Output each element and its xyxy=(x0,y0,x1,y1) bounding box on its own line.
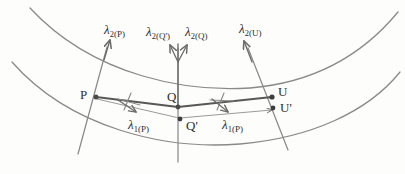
point-label-U-prime: U' xyxy=(280,101,292,114)
chord-Q-to-U xyxy=(178,97,272,107)
point-dot-U xyxy=(269,94,274,99)
point-dot-P xyxy=(94,95,99,100)
lambda-glyph: λ xyxy=(222,117,228,132)
point-dot-U-prime xyxy=(271,106,276,111)
point-label-U: U xyxy=(278,85,287,98)
point-label-P: P xyxy=(80,88,87,101)
lambda-glyph: λ xyxy=(104,22,110,37)
lambda-argument: (P) xyxy=(232,124,243,134)
lambda-argument: (P) xyxy=(138,124,149,134)
geometry-figure: P Q Q' U U' λ2(P) λ2(Q') λ2(Q) λ2(U) λ1(… xyxy=(0,0,405,174)
lambda-glyph: λ xyxy=(239,21,245,36)
point-label-Q-prime: Q' xyxy=(186,119,198,132)
lambda-glyph: λ xyxy=(146,24,152,39)
lambda1-P-right-label: λ1(P) xyxy=(222,118,243,132)
lambda2-U-label: λ2(U) xyxy=(239,22,261,36)
lambda2-Qprime-label: λ2(Q') xyxy=(146,25,170,39)
lambda1-P-left-label: λ1(P) xyxy=(128,118,149,132)
lambda2-U-arrow xyxy=(244,41,252,62)
lambda-glyph: λ xyxy=(128,117,134,132)
lambda2-P-label: λ2(P) xyxy=(104,23,125,37)
lambda2-Qprime-arrow xyxy=(170,45,178,62)
outer-geodesic-arc xyxy=(30,8,398,89)
point-dot-Q-prime xyxy=(178,117,183,122)
lambda-argument: (P) xyxy=(114,29,125,39)
lambda-argument: (Q) xyxy=(195,31,208,41)
lambda2-Q-arrow xyxy=(178,45,187,62)
lambda-glyph: λ xyxy=(185,24,191,39)
point-dot-Q xyxy=(176,105,181,110)
point-label-Q: Q xyxy=(167,90,176,103)
lambda-argument: (U) xyxy=(249,28,262,38)
lambda-argument: (Q') xyxy=(156,31,170,41)
lambda2-Q-label: λ2(Q) xyxy=(185,25,207,39)
lambda2-P-arrow xyxy=(104,40,110,60)
